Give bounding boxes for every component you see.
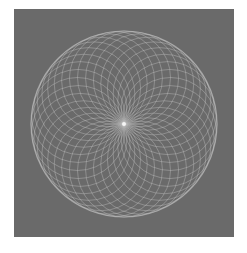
rosette-artwork: [14, 9, 234, 237]
artwork-frame: [14, 9, 234, 237]
center-glow: [122, 122, 126, 126]
